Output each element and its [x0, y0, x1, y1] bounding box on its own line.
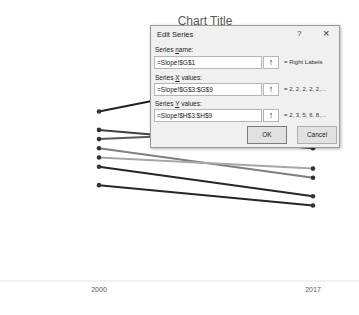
close-icon[interactable]: ×	[323, 27, 329, 39]
series-6-point-2017[interactable]	[311, 194, 316, 199]
series-line-5[interactable]	[99, 158, 313, 169]
label-text: Series	[155, 100, 175, 107]
label-text: values:	[179, 100, 201, 107]
series-3-point-2000[interactable]	[97, 137, 102, 142]
series-x-label: Series X values:	[155, 74, 202, 81]
series-y-label: Series Y values:	[155, 100, 202, 107]
series-y-input[interactable]: =Slope!$H$3:$H$9	[154, 109, 262, 122]
collapse-dialog-icon: ↑	[269, 84, 274, 94]
series-2-point-2000[interactable]	[97, 128, 102, 133]
x-tick-label-2000: 2000	[91, 286, 107, 293]
label-text: Series	[155, 46, 175, 53]
series-line-6[interactable]	[99, 167, 313, 196]
series-7-point-2017[interactable]	[311, 203, 316, 208]
ok-button[interactable]: OK	[247, 126, 287, 144]
series-name-range-button[interactable]: ↑	[263, 56, 279, 69]
collapse-dialog-icon: ↑	[269, 57, 274, 67]
series-4-point-2000[interactable]	[97, 146, 102, 151]
label-text: Series	[155, 74, 175, 81]
series-y-range-button[interactable]: ↑	[263, 109, 279, 122]
series-7-point-2000[interactable]	[97, 183, 102, 188]
series-5-point-2000[interactable]	[97, 155, 102, 160]
label-text: ame:	[179, 46, 193, 53]
series-6-point-2000[interactable]	[97, 164, 102, 169]
series-name-preview: = Right Labels	[284, 59, 323, 65]
label-text: values:	[180, 74, 202, 81]
series-name-input[interactable]: =Slope!$G$1	[154, 56, 262, 69]
x-tick-label-2017: 2017	[305, 286, 321, 293]
series-x-preview: = 2, 2, 2, 2, 2,...	[284, 86, 326, 92]
series-x-range-button[interactable]: ↑	[263, 83, 279, 96]
collapse-dialog-icon: ↑	[269, 110, 274, 120]
series-y-preview: = 2, 3, 5, 6, 8,...	[284, 112, 326, 118]
help-icon[interactable]: ?	[297, 29, 301, 38]
series-1-point-2000[interactable]	[97, 109, 102, 114]
edit-series-dialog: Edit Series ? × Series name: =Slope!$G$1…	[150, 25, 340, 148]
series-5-point-2017[interactable]	[311, 166, 316, 171]
cancel-button[interactable]: Cancel	[297, 126, 337, 144]
series-x-input[interactable]: =Slope!$G$3:$G$9	[154, 83, 262, 96]
series-line-7[interactable]	[99, 185, 313, 205]
series-name-label: Series name:	[155, 46, 193, 53]
dialog-title: Edit Series	[157, 30, 193, 39]
series-4-point-2017[interactable]	[311, 176, 316, 181]
